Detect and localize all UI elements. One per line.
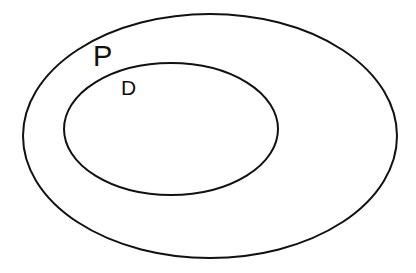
set-label-d: D [121,76,136,99]
nested-set-diagram: P D [0,0,416,273]
set-label-p: P [93,40,112,72]
inner-set-d-ellipse [64,63,278,195]
outer-set-p-ellipse [23,14,397,258]
